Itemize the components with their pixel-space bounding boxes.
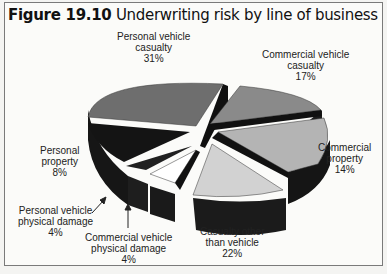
label-personal-property: Personalproperty8% bbox=[40, 145, 79, 178]
label-commercial-property: Commercialproperty14% bbox=[318, 142, 371, 175]
label-personal-vehicle-physical-damage: Personal vehiclephysical damage4% bbox=[18, 205, 93, 238]
label-commercial-vehicle-casualty: Commercial vehiclecasualty17% bbox=[262, 49, 349, 82]
label-casualty-other-than-vehicle: Casualty otherthan vehicle22% bbox=[200, 226, 264, 259]
label-commercial-vehicle-physical-damage: Commercial vehiclephysical damage4% bbox=[85, 232, 172, 265]
label-personal-vehicle-casualty: Personal vehiclecasualty31% bbox=[117, 31, 190, 64]
slice-personal-vehicle-casualty[interactable] bbox=[88, 83, 223, 126]
